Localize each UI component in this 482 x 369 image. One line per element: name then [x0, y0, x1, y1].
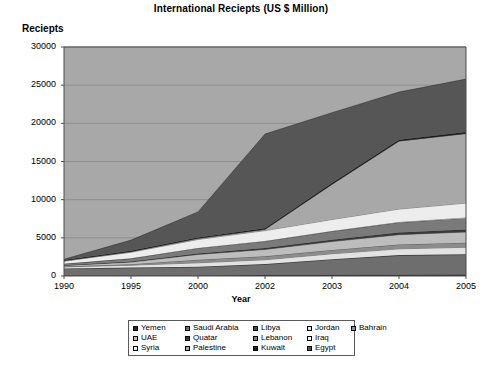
legend-item-uae[interactable]: UAE: [133, 333, 185, 343]
x-tick-label: 1995: [107, 282, 155, 291]
legend-swatch-icon: [351, 326, 356, 331]
legend-item-quatar[interactable]: Quatar: [185, 333, 253, 343]
x-tick-label: 2003: [308, 282, 356, 291]
legend-swatch-icon: [133, 326, 138, 331]
legend-item-label: Quatar: [193, 333, 217, 343]
legend-item-label: Libya: [261, 323, 280, 333]
x-tick-label: 2004: [375, 282, 423, 291]
legend-swatch-icon: [133, 336, 138, 341]
legend-item-egypt[interactable]: Egypt: [307, 343, 351, 353]
legend-item-jordan[interactable]: Jordan: [307, 323, 351, 333]
legend-swatch-icon: [253, 336, 258, 341]
y-tick-label: 30000: [12, 42, 56, 51]
legend-item-bahrain[interactable]: Bahrain: [351, 323, 387, 333]
legend-swatch-icon: [253, 346, 258, 351]
chart-container: International Reciepts (US $ Million) Re…: [0, 0, 482, 369]
legend-item-label: Syria: [141, 343, 159, 353]
x-axis-title: Year: [0, 294, 482, 304]
legend-item-label: Egypt: [315, 343, 335, 353]
legend-item-iraq[interactable]: Iraq: [307, 333, 351, 343]
legend-item-label: Lebanon: [261, 333, 292, 343]
legend-item-label: Yemen: [141, 323, 166, 333]
legend-item-empty: [351, 333, 387, 343]
legend-item-label: Jordan: [315, 323, 339, 333]
y-tick-label: 15000: [12, 157, 56, 166]
x-tick-label: 1990: [40, 282, 88, 291]
legend-swatch-icon: [307, 326, 312, 331]
legend-swatch-icon: [185, 326, 190, 331]
x-tick-label: 2002: [241, 282, 289, 291]
legend-item-yemen[interactable]: Yemen: [133, 323, 185, 333]
legend-item-label: Palestine: [193, 343, 226, 353]
chart-legend: YemenSaudi ArabiaLibyaJordanBahrainUAEQu…: [128, 320, 355, 356]
y-tick-label: 0: [12, 271, 56, 280]
y-tick-label: 20000: [12, 118, 56, 127]
x-tick-label: 2005: [442, 282, 482, 291]
legend-item-libya[interactable]: Libya: [253, 323, 307, 333]
legend-item-empty: [351, 343, 387, 353]
legend-swatch-icon: [133, 346, 138, 351]
y-tick-label: 5000: [12, 233, 56, 242]
legend-swatch-icon: [185, 346, 190, 351]
stacked-area-plot: [0, 0, 482, 369]
legend-swatch-icon: [307, 346, 312, 351]
y-tick-label: 25000: [12, 80, 56, 89]
x-tick-label: 2000: [174, 282, 222, 291]
legend-swatch-icon: [253, 326, 258, 331]
legend-item-syria[interactable]: Syria: [133, 343, 185, 353]
legend-swatch-icon: [307, 336, 312, 341]
legend-item-label: Bahrain: [359, 323, 387, 333]
legend-item-lebanon[interactable]: Lebanon: [253, 333, 307, 343]
legend-item-palestine[interactable]: Palestine: [185, 343, 253, 353]
legend-item-label: Saudi Arabia: [193, 323, 238, 333]
legend-item-label: UAE: [141, 333, 157, 343]
y-tick-label: 10000: [12, 195, 56, 204]
legend-swatch-icon: [185, 336, 190, 341]
legend-item-kuwait[interactable]: Kuwait: [253, 343, 307, 353]
legend-item-label: Kuwait: [261, 343, 285, 353]
legend-item-saudi-arabia[interactable]: Saudi Arabia: [185, 323, 253, 333]
legend-item-label: Iraq: [315, 333, 329, 343]
